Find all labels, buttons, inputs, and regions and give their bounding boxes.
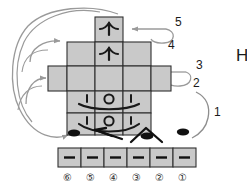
net-cell-upper-left [67, 42, 95, 66]
side-letter-h: H [236, 47, 247, 64]
net-cell-face-right [123, 91, 151, 113]
step-label-5: 5 [175, 16, 182, 28]
diagram-canvas: 1 2 3 4 5 H ⑥ ⑤ ④ ③ ② ① [0, 0, 247, 189]
diagram-vector-layer [0, 0, 247, 189]
net-cell-mid-right-far [151, 66, 171, 91]
dot-left-mark [68, 130, 80, 137]
strip-number-6: ⑥ [63, 173, 72, 183]
strip-number-4: ④ [109, 173, 118, 183]
flow-arrow-step1 [18, 86, 42, 110]
net-cell-mid-left [67, 66, 95, 91]
flow-arrow-step3 [22, 50, 48, 72]
net-cell-mid-center [95, 66, 123, 91]
strip-number-1: ① [178, 173, 187, 183]
strip-number-5: ⑤ [86, 173, 95, 183]
step-label-2: 2 [193, 77, 200, 89]
net-cell-mid-left-far [48, 66, 67, 91]
flow-arrow-step4 [30, 41, 60, 62]
flow-arrow-step2 [26, 78, 46, 104]
strip-group [58, 148, 196, 167]
strip-number-3: ③ [132, 173, 141, 183]
step-label-1: 1 [214, 106, 221, 118]
dot-right-mark [177, 129, 189, 136]
step1-bracket [192, 92, 209, 138]
net-cell-lower-right [123, 113, 151, 135]
strip-number-2: ② [155, 173, 164, 183]
net-cell-face-left [67, 91, 95, 113]
step-label-3: 3 [196, 59, 203, 71]
net-cell-mid-right [123, 66, 151, 91]
step-label-4: 4 [168, 39, 175, 51]
net-cell-upper-right [123, 42, 151, 66]
